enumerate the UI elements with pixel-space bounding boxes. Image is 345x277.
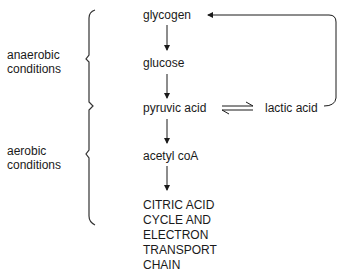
anaerobic-label-line1: anaerobic	[7, 48, 61, 62]
node-citric-acid-cycle: CITRIC ACID CYCLE AND ELECTRON TRANSPORT…	[143, 198, 217, 273]
aerobic-label-line2: conditions	[7, 158, 61, 172]
aerobic-label: aerobic conditions	[7, 144, 61, 172]
aerobic-label-line1: aerobic	[7, 144, 61, 158]
node-glucose: glucose	[143, 56, 184, 70]
final-stage-line: ELECTRON	[143, 228, 217, 243]
anaerobic-label-line2: conditions	[7, 62, 61, 76]
node-acetyl-coa: acetyl coA	[143, 149, 198, 163]
final-stage-line: CITRIC ACID	[143, 198, 217, 213]
final-stage-line: CYCLE AND	[143, 213, 217, 228]
node-pyruvic-acid: pyruvic acid	[143, 101, 206, 115]
condition-brace	[86, 10, 95, 225]
final-stage-line: CHAIN	[143, 258, 217, 273]
final-stage-line: TRANSPORT	[143, 243, 217, 258]
equilibrium-arrow	[222, 102, 253, 114]
arrow-lactic-glycogen	[208, 15, 336, 106]
anaerobic-label: anaerobic conditions	[7, 48, 61, 76]
node-lactic-acid: lactic acid	[265, 101, 318, 115]
node-glycogen: glycogen	[143, 8, 191, 22]
